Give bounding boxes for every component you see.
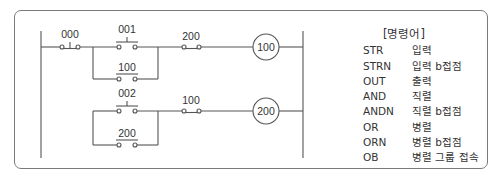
legend-code: ANDN xyxy=(363,104,412,119)
contact-100-b-icon xyxy=(182,109,201,113)
label-002: 002 xyxy=(118,87,136,99)
legend-desc: 입력 b접점 xyxy=(412,59,462,74)
legend-desc: 직렬 b접점 xyxy=(412,104,462,119)
label-100-branch: 100 xyxy=(118,61,136,73)
legend-title: [명령어] xyxy=(383,27,479,42)
contact-100-branch-icon xyxy=(116,74,138,81)
label-100-b: 100 xyxy=(182,94,200,106)
legend-code: STR xyxy=(363,43,412,58)
legend-desc: 병렬 xyxy=(412,120,432,135)
legend-desc: 병렬 그룹 접속 xyxy=(412,150,479,165)
contact-000-icon xyxy=(60,42,80,49)
contact-002-icon xyxy=(116,101,138,113)
legend-item: ORN병렬 b접점 xyxy=(363,135,479,150)
legend-item: ANDN직렬 b접점 xyxy=(363,104,479,119)
contact-200-icon xyxy=(182,45,201,49)
legend-code: AND xyxy=(363,89,412,104)
legend-item: OUT출력 xyxy=(363,74,479,89)
label-001: 001 xyxy=(118,23,136,35)
contact-001-icon xyxy=(116,37,138,49)
legend-item: AND직렬 xyxy=(363,89,479,104)
legend-desc: 출력 xyxy=(412,74,432,89)
legend-item: OR병렬 xyxy=(363,120,479,135)
legend-item: OB병렬 그룹 접속 xyxy=(363,150,479,165)
legend-code: OR xyxy=(363,120,412,135)
label-000: 000 xyxy=(61,28,79,40)
legend-desc: 직렬 xyxy=(412,89,432,104)
label-200: 200 xyxy=(182,30,200,42)
legend-desc: 병렬 b접점 xyxy=(412,135,462,150)
label-coil-200: 200 xyxy=(257,105,275,117)
legend-item: STRN입력 b접점 xyxy=(363,59,479,74)
label-coil-100: 100 xyxy=(257,41,275,53)
legend-desc: 입력 xyxy=(412,43,432,58)
legend-code: OB xyxy=(363,150,412,165)
legend-item: STR입력 xyxy=(363,43,479,58)
legend-code: ORN xyxy=(363,135,412,150)
contact-200-branch-icon xyxy=(116,140,138,147)
instruction-legend: [명령어] STR입력 STRN입력 b접점 OUT출력 AND직렬 ANDN직… xyxy=(363,27,479,166)
legend-code: OUT xyxy=(363,74,412,89)
label-200-branch: 200 xyxy=(118,127,136,139)
legend-code: STRN xyxy=(363,59,412,74)
